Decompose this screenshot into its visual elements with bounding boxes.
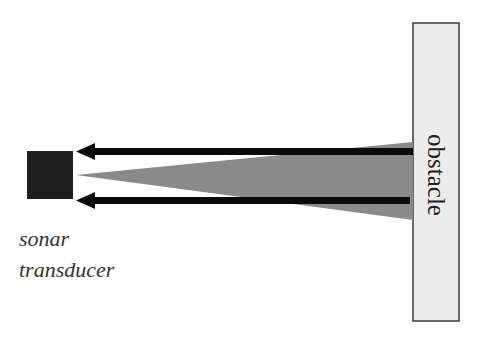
arrow-shaft xyxy=(90,148,413,155)
obstacle: obstacle xyxy=(413,23,459,321)
transducer-label-line1: sonar xyxy=(19,226,70,251)
obstacle-label: obstacle xyxy=(423,134,450,216)
arrow-head-icon xyxy=(76,192,95,209)
arrow-shaft xyxy=(90,197,410,204)
transducer-label-line2: transducer xyxy=(19,257,115,282)
sonar-diagram: obstacle sonar transducer xyxy=(0,0,480,337)
arrow-head-icon xyxy=(76,143,95,160)
sonar-transducer xyxy=(27,151,73,199)
